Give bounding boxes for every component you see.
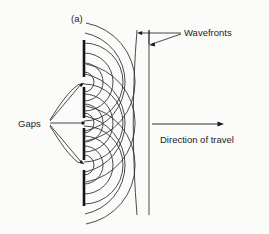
gaps-chord-top	[50, 83, 82, 121]
direction-arrowhead	[218, 121, 225, 126]
gaps-leader-top	[50, 84, 79, 120]
merged-wavefronts	[133, 30, 149, 215]
wave-arcs-gap-bottom	[84, 106, 135, 224]
wave-diffraction-figure: (a)	[0, 0, 269, 234]
gaps-leader-bottom	[50, 126, 79, 163]
wavefronts-branch-lower	[152, 34, 181, 44]
wave-arc	[84, 136, 113, 194]
wavefronts-label: Wavefronts	[184, 27, 232, 38]
wave-arc	[86, 106, 135, 224]
gaps-leader-dot-middle	[81, 121, 84, 124]
direction-of-travel-arrow	[152, 121, 224, 126]
wave-arc	[86, 64, 135, 182]
wavefronts-leaders	[137, 30, 181, 47]
diagram-canvas: (a)	[0, 0, 269, 234]
wave-arcs-gap-top	[84, 23, 135, 141]
wavefronts-arrowhead-lower	[149, 42, 155, 46]
gaps-label: Gaps	[18, 118, 41, 129]
panel-letter: (a)	[71, 13, 83, 24]
wavefronts-arrowhead-upper	[137, 31, 142, 35]
gaps-chord-bottom	[50, 125, 82, 163]
wave-arc	[84, 53, 113, 111]
wave-arc	[84, 94, 113, 152]
wave-arcs-gap-middle	[84, 64, 135, 182]
direction-of-travel-label: Direction of travel	[160, 134, 234, 145]
gaps-leaders	[50, 83, 85, 164]
wave-arc	[86, 23, 135, 141]
